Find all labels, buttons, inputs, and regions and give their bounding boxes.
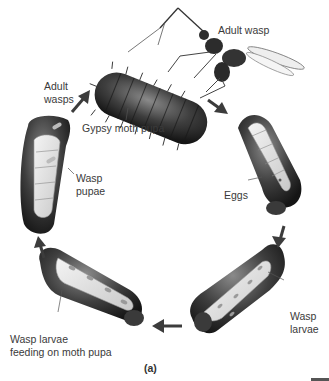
arrow-to-eggs-icon <box>208 100 228 114</box>
wasp-pupae-illustration <box>21 116 71 234</box>
gypsy-moth-pupa-illustration <box>78 56 216 158</box>
label-feeding-line2: feeding on moth pupa <box>10 346 112 358</box>
figure-caption: (a) <box>144 362 157 374</box>
arrow-to-feeding-icon <box>152 319 182 333</box>
pupa-with-larvae-illustration <box>190 244 285 333</box>
label-gypsy-moth-pupa: Gypsy moth pupa <box>82 122 164 134</box>
label-wasp-pupae-line1: Wasp <box>76 172 102 184</box>
label-adult-wasp: Adult wasp <box>218 24 269 36</box>
lifecycle-diagram <box>0 0 329 381</box>
label-adult-wasps-line2: wasps <box>44 93 74 105</box>
label-adult-wasps-line1: Adult <box>44 80 68 92</box>
larvae-feeding-illustration <box>39 248 144 326</box>
label-wasp-pupae-line2: pupae <box>76 185 105 197</box>
arrow-to-adults-icon <box>72 90 90 112</box>
label-wasp-larvae-line2: larvae <box>290 323 319 335</box>
label-eggs: Eggs <box>224 189 248 201</box>
label-wasp-larvae-line1: Wasp <box>290 310 316 322</box>
label-feeding-line1: Wasp larvae <box>10 333 68 345</box>
